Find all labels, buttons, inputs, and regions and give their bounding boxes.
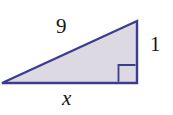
right-triangle-svg — [0, 0, 173, 115]
base-length-label: x — [62, 88, 71, 109]
vertical-leg-length-label: 1 — [150, 34, 161, 55]
triangle-shape — [2, 21, 137, 83]
hypotenuse-length-label: 9 — [56, 16, 67, 37]
geometry-figure: 9 1 x — [0, 0, 173, 115]
